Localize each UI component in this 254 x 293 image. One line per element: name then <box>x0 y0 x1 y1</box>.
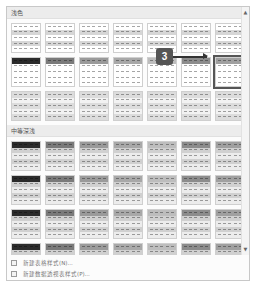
callout-arrow-icon <box>173 56 207 58</box>
step-callout-badge: 3 <box>156 48 173 65</box>
table-style-thumbnail[interactable] <box>45 175 75 205</box>
table-style-thumbnail[interactable] <box>181 175 211 205</box>
table-style-thumbnail[interactable] <box>45 91 75 121</box>
table-style-thumbnail[interactable] <box>79 91 109 121</box>
table-style-thumbnail[interactable] <box>79 175 109 205</box>
table-style-thumbnail[interactable] <box>45 23 75 53</box>
table-style-thumbnail[interactable] <box>181 23 211 53</box>
style-gallery: 浅色中等深浅深色 <box>7 7 243 255</box>
table-style-thumbnail[interactable] <box>113 57 143 87</box>
table-style-thumbnail-selected[interactable] <box>215 57 243 87</box>
gallery-menu: 新建表格样式(N)... 新建数据透视表样式(P)... <box>7 257 243 279</box>
table-style-thumbnail[interactable] <box>79 243 109 255</box>
table-style-thumbnail[interactable] <box>113 23 143 53</box>
table-style-thumbnail[interactable] <box>215 141 243 171</box>
table-style-thumbnail[interactable] <box>113 175 143 205</box>
table-style-thumbnail[interactable] <box>113 91 143 121</box>
table-style-thumbnail[interactable] <box>113 209 143 239</box>
table-style-thumbnail[interactable] <box>181 243 211 255</box>
table-style-thumbnail[interactable] <box>45 57 75 87</box>
table-style-thumbnail[interactable] <box>147 175 177 205</box>
table-style-thumbnail[interactable] <box>113 243 143 255</box>
section-header: 浅色 <box>7 7 243 19</box>
scrollbar[interactable]: ▲ ▼ <box>241 7 249 255</box>
table-style-thumbnail[interactable] <box>79 209 109 239</box>
table-style-thumbnail[interactable] <box>11 91 41 121</box>
menu-item-label: 新建数据透视表样式(P)... <box>23 270 90 278</box>
table-style-thumbnail[interactable] <box>11 209 41 239</box>
table-style-thumbnail[interactable] <box>11 23 41 53</box>
table-style-thumbnail[interactable] <box>147 243 177 255</box>
table-style-thumbnail[interactable] <box>11 175 41 205</box>
table-style-thumbnail[interactable] <box>181 141 211 171</box>
table-style-thumbnail[interactable] <box>147 209 177 239</box>
table-style-thumbnail[interactable] <box>79 23 109 53</box>
table-style-thumbnail[interactable] <box>113 141 143 171</box>
scroll-up-icon[interactable]: ▲ <box>242 9 249 16</box>
new-pivot-style-item[interactable]: 新建数据透视表样式(P)... <box>7 268 243 279</box>
table-style-thumbnail[interactable] <box>215 91 243 121</box>
table-style-thumbnail[interactable] <box>147 91 177 121</box>
section-header: 中等深浅 <box>7 125 243 137</box>
table-style-icon <box>11 260 17 266</box>
table-style-gallery-panel: 浅色中等深浅深色 ▲ ▼ 新建表格样式(N)... 新建数据透视表样式(P)..… <box>6 6 250 281</box>
table-style-thumbnail[interactable] <box>45 141 75 171</box>
table-style-thumbnail[interactable] <box>11 57 41 87</box>
table-style-thumbnail[interactable] <box>79 141 109 171</box>
table-style-thumbnail[interactable] <box>215 175 243 205</box>
table-style-thumbnail[interactable] <box>181 209 211 239</box>
table-style-thumbnail[interactable] <box>147 141 177 171</box>
table-style-thumbnail[interactable] <box>45 209 75 239</box>
table-style-thumbnail[interactable] <box>215 243 243 255</box>
menu-item-label: 新建表格样式(N)... <box>23 259 73 267</box>
table-style-thumbnail[interactable] <box>215 209 243 239</box>
table-style-thumbnail[interactable] <box>11 243 41 255</box>
table-style-thumbnail[interactable] <box>79 57 109 87</box>
style-grid <box>7 21 243 125</box>
new-table-style-item[interactable]: 新建表格样式(N)... <box>7 257 243 268</box>
table-style-thumbnail[interactable] <box>45 243 75 255</box>
table-style-thumbnail[interactable] <box>181 57 211 87</box>
table-style-thumbnail[interactable] <box>215 23 243 53</box>
pivot-style-icon <box>11 271 17 277</box>
scroll-down-icon[interactable]: ▼ <box>242 246 249 253</box>
table-style-thumbnail[interactable] <box>181 91 211 121</box>
table-style-thumbnail[interactable] <box>11 141 41 171</box>
style-grid <box>7 139 243 255</box>
